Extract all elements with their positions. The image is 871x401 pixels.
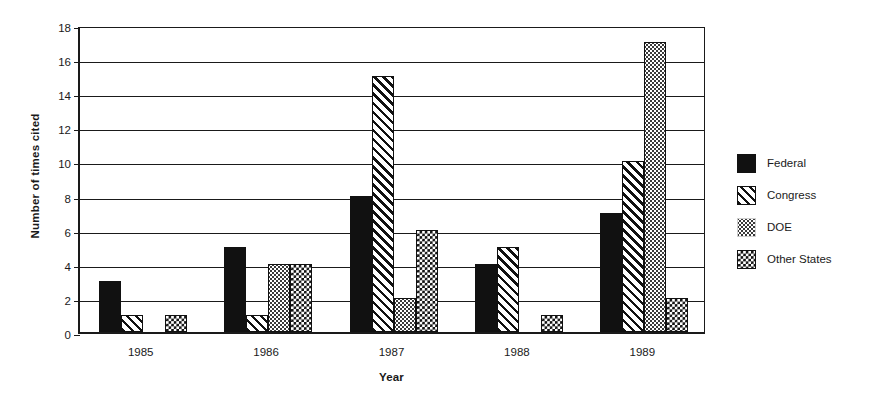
bar (121, 315, 143, 332)
y-tick-label: 4 (41, 261, 71, 273)
bar (416, 230, 438, 332)
bar (541, 315, 563, 332)
y-tick-label: 14 (41, 90, 71, 102)
plot-area: 024681012141618 (78, 27, 705, 334)
y-tick-mark (74, 62, 80, 63)
x-tick-label: 1989 (630, 346, 656, 358)
bar (394, 298, 416, 332)
y-tick-label: 6 (41, 227, 71, 239)
y-tick-mark (74, 267, 80, 268)
x-tick-label: 1988 (504, 346, 530, 358)
y-tick-mark (74, 130, 80, 131)
bar (644, 42, 666, 332)
legend-swatch-check-icon (737, 250, 756, 269)
bar (165, 315, 187, 332)
y-tick-label: 10 (41, 158, 71, 170)
y-tick-mark (74, 28, 80, 29)
legend-label: Congress (767, 189, 816, 201)
chart-figure: Number of times cited 024681012141618 19… (0, 0, 871, 401)
legend-item: Federal (737, 147, 867, 179)
bar (372, 76, 394, 332)
legend-item: Other States (737, 243, 867, 275)
bar (622, 161, 644, 332)
y-tick-label: 8 (41, 193, 71, 205)
y-tick-label: 16 (41, 56, 71, 68)
bar (666, 298, 688, 332)
y-tick-label: 2 (41, 295, 71, 307)
chart-legend: FederalCongressDOEOther States (737, 147, 867, 275)
y-tick-mark (74, 164, 80, 165)
legend-swatch-dots-icon (737, 218, 756, 237)
x-tick-label: 1985 (128, 346, 154, 358)
legend-label: Other States (767, 253, 832, 265)
bar (268, 264, 290, 332)
bar (350, 196, 372, 332)
x-tick-label: 1986 (253, 346, 279, 358)
bar (246, 315, 268, 332)
x-axis-title: Year (78, 371, 705, 383)
x-tick-label: 1987 (379, 346, 405, 358)
legend-item: Congress (737, 179, 867, 211)
legend-label: DOE (767, 221, 792, 233)
y-tick-label: 12 (41, 124, 71, 136)
y-tick-mark (74, 199, 80, 200)
bar (99, 281, 121, 332)
legend-swatch-solid-icon (737, 154, 756, 173)
legend-label: Federal (767, 157, 806, 169)
y-tick-label: 18 (41, 22, 71, 34)
y-tick-mark (74, 96, 80, 97)
bar (290, 264, 312, 332)
bar (224, 247, 246, 332)
legend-swatch-hatch-icon (737, 186, 756, 205)
legend-item: DOE (737, 211, 867, 243)
bar (475, 264, 497, 332)
bar (600, 213, 622, 332)
y-axis-title: Number of times cited (29, 56, 41, 296)
bar (497, 247, 519, 332)
y-tick-mark (74, 335, 80, 336)
y-tick-mark (74, 233, 80, 234)
gridline (80, 62, 704, 63)
y-tick-mark (74, 301, 80, 302)
y-tick-label: 0 (41, 329, 71, 341)
